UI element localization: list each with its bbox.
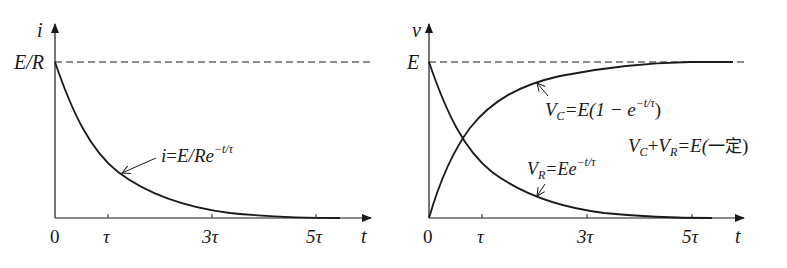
current-decay-curve [55,62,340,218]
figure-canvas: i E/R 0 τ 3τ 5τ t i=E/Re−t/τ v E 0 τ 3τ … [0,0,787,268]
vr-formula: VR=Ee−t/τ [527,155,596,182]
y-axis-label: v [412,19,421,41]
x-axis-label: t [735,225,741,247]
vc-label-pointer [537,83,548,96]
tick-label-5tau: 5τ [682,226,700,247]
tick-label-tau: τ [477,226,485,247]
tick-label-3tau: 3τ [576,226,595,247]
tick-label-3tau: 3τ [201,226,220,247]
current-chart: i E/R 0 τ 3τ 5τ t i=E/Re−t/τ [13,19,372,247]
voltage-chart: v E 0 τ 3τ 5τ t VC=E(1 − e−t/τ) VC+VR=E(… [406,19,748,247]
tick-label-5tau: 5τ [306,226,324,247]
vc-formula: VC=E(1 − e−t/τ) [545,96,661,123]
tick-label-0: 0 [423,226,433,247]
label-pointer [122,158,156,173]
vr-label-pointer [537,184,545,196]
tick-label-tau: τ [103,226,111,247]
y-axis-label: i [37,19,43,41]
x-axis-label: t [361,225,367,247]
sum-formula: VC+VR=E(一定) [628,135,748,159]
level-label: E [406,51,419,73]
level-label: E/R [13,51,44,73]
tick-label-0: 0 [50,226,60,247]
current-formula: i=E/Re−t/τ [161,142,234,166]
